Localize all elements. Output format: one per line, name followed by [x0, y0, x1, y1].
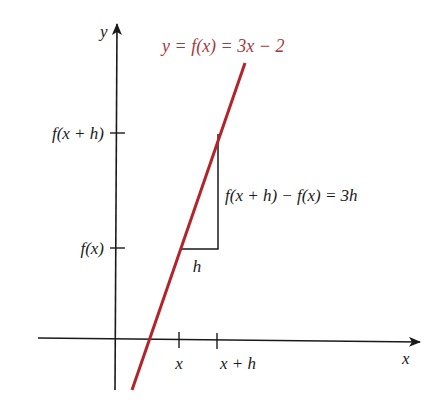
rise-annotation: f(x + h) − f(x) = 3h	[225, 186, 358, 205]
y-tick-label-f-x: f(x)	[80, 239, 104, 258]
function-label: y = f(x) = 3x − 2	[160, 36, 284, 57]
x-axis	[38, 338, 420, 342]
y-axis	[115, 24, 117, 390]
function-line	[132, 63, 245, 390]
run-annotation: h	[193, 257, 202, 276]
x-tick-label-x-plus-h: x + h	[219, 354, 256, 373]
y-tick-label-f-x-plus-h: f(x + h)	[52, 124, 104, 143]
linear-function-diagram: y x f(x + h) f(x) x x + h y = f(x) = 3x …	[0, 0, 443, 420]
y-axis-label: y	[98, 22, 108, 41]
x-tick-label-x: x	[174, 354, 183, 373]
x-axis-label: x	[401, 349, 410, 368]
